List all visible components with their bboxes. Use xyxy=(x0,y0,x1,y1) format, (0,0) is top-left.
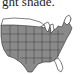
florida-unshaded xyxy=(54,58,63,72)
us-map xyxy=(0,0,80,75)
